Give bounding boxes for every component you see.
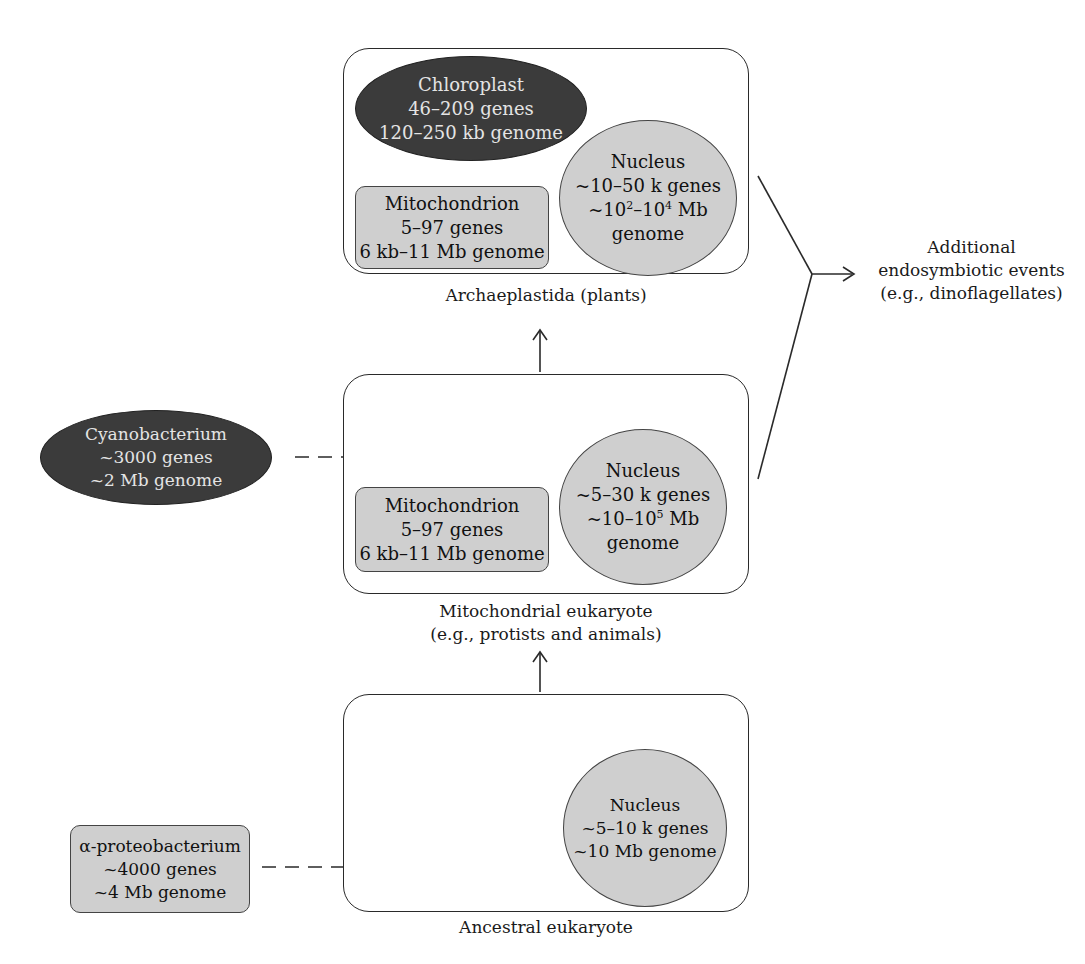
plants-mitochondrion: Mitochondrion 5–97 genes 6 kb–11 Mb geno… — [355, 186, 549, 269]
chloroplast-title: Chloroplast — [418, 73, 524, 97]
mitochondrion-genes: 5–97 genes — [401, 518, 504, 542]
nucleus-genome: ~10 Mb genome — [573, 840, 716, 863]
mitochondrion-genome: 6 kb–11 Mb genome — [359, 240, 544, 264]
nucleus-title: Nucleus — [606, 459, 681, 483]
cyanobacterium-genes: ~3000 genes — [99, 446, 213, 469]
nucleus-genome-label: genome — [612, 222, 684, 246]
mito-eukaryote-caption: Mitochondrial eukaryote (e.g., protists … — [343, 600, 749, 646]
mitochondrion-genome: 6 kb–11 Mb genome — [359, 542, 544, 566]
cyanobacterium-title: Cyanobacterium — [85, 423, 227, 446]
nucleus-title: Nucleus — [610, 794, 681, 817]
nucleus-genes: ~5–10 k genes — [582, 817, 709, 840]
alphaproteobacterium-donor: α-proteobacterium ~4000 genes ~4 Mb geno… — [70, 825, 250, 913]
nucleus-genes: ~5–30 k genes — [576, 483, 710, 507]
nucleus-genes: ~10–50 k genes — [575, 174, 721, 198]
nucleus-title: Nucleus — [611, 150, 686, 174]
plants-nucleus: Nucleus ~10–50 k genes ~102–104 Mb genom… — [559, 120, 737, 276]
alphaproteobacterium-title: α-proteobacterium — [79, 835, 241, 858]
nucleus-genome: ~102–104 Mb — [588, 198, 708, 222]
ancestral-caption: Ancestral eukaryote — [343, 916, 749, 939]
cyanobacterium-genome: ~2 Mb genome — [90, 469, 222, 492]
nucleus-genome-label: genome — [607, 531, 679, 555]
mitochondrion-genes: 5–97 genes — [401, 216, 504, 240]
nucleus-genome: ~10–105 Mb — [587, 507, 700, 531]
alphaproteobacterium-genes: ~4000 genes — [103, 858, 217, 881]
ancestral-nucleus: Nucleus ~5–10 k genes ~10 Mb genome — [563, 749, 727, 907]
chloroplast-genes: 46–209 genes — [408, 97, 534, 121]
chloroplast-genome: 120–250 kb genome — [379, 121, 563, 145]
cyanobacterium-donor: Cyanobacterium ~3000 genes ~2 Mb genome — [40, 410, 272, 505]
mito-eukaryote-nucleus: Nucleus ~5–30 k genes ~10–105 Mb genome — [559, 429, 727, 585]
plants-caption: Archaeplastida (plants) — [343, 284, 749, 307]
additional-events-label: Additional endosymbiotic events (e.g., d… — [858, 236, 1085, 305]
mitochondrion-title: Mitochondrion — [385, 494, 520, 518]
chloroplast-organelle: Chloroplast 46–209 genes 120–250 kb geno… — [355, 56, 587, 161]
mitochondrion-title: Mitochondrion — [385, 192, 520, 216]
mito-eukaryote-mitochondrion: Mitochondrion 5–97 genes 6 kb–11 Mb geno… — [355, 487, 549, 572]
alphaproteobacterium-genome: ~4 Mb genome — [94, 881, 226, 904]
